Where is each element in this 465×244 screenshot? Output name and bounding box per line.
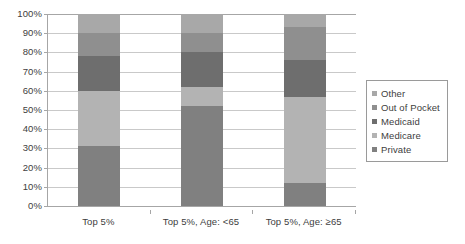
bar-segment xyxy=(78,33,120,56)
bar-segment xyxy=(284,97,326,183)
bar-segment xyxy=(78,91,120,147)
y-axis-tick-label: 20% xyxy=(23,163,42,173)
bar-segment xyxy=(181,14,223,33)
legend-label: Medicaid xyxy=(381,116,420,127)
x-axis-tick-mark xyxy=(355,210,356,214)
bar-segment xyxy=(284,60,326,96)
bar-segment xyxy=(181,33,223,52)
y-axis-tick-label: 10% xyxy=(23,182,42,192)
bar-segment xyxy=(78,14,120,33)
bar-segment xyxy=(78,146,120,206)
legend-label: Private xyxy=(381,144,411,155)
bars-layer xyxy=(48,14,356,206)
y-axis-tick-label: 100% xyxy=(17,9,42,19)
bar-segment xyxy=(284,183,326,206)
x-axis-tick-mark xyxy=(150,210,151,214)
y-axis-tick-label: 50% xyxy=(23,105,42,115)
stacked-bar-chart: 0%10%20%30%40%50%60%70%80%90%100% Top 5%… xyxy=(0,0,465,244)
y-axis-tick-mark xyxy=(44,206,48,207)
legend-item: Out of Pocket xyxy=(372,100,440,114)
legend-swatch-icon xyxy=(372,91,377,96)
bar-group xyxy=(78,14,120,206)
x-axis-tick-label: Top 5% xyxy=(47,216,150,228)
y-axis: 0%10%20%30%40%50%60%70%80%90%100% xyxy=(0,14,46,206)
y-axis-tick-label: 80% xyxy=(23,47,42,57)
y-axis-tick-label: 40% xyxy=(23,124,42,134)
bar-segment xyxy=(284,14,326,27)
bar-group xyxy=(181,14,223,206)
bar-segment xyxy=(78,56,120,91)
legend-label: Out of Pocket xyxy=(381,102,440,113)
legend-item: Medicaid xyxy=(372,114,440,128)
y-axis-tick-label: 60% xyxy=(23,86,42,96)
legend-swatch-icon xyxy=(372,133,377,138)
bar-segment xyxy=(181,106,223,206)
legend-swatch-icon xyxy=(372,119,377,124)
legend-item: Medicare xyxy=(372,128,440,142)
x-axis-tick-label: Top 5%, Age: ≥65 xyxy=(252,216,355,228)
bar-group xyxy=(284,14,326,206)
y-axis-tick-label: 30% xyxy=(23,143,42,153)
legend-label: Medicare xyxy=(381,130,421,141)
bar-segment xyxy=(181,87,223,106)
bar-segment xyxy=(284,27,326,60)
y-axis-tick-label: 70% xyxy=(23,67,42,77)
bar-segment xyxy=(181,52,223,87)
legend-swatch-icon xyxy=(372,105,377,110)
plot-area xyxy=(47,14,356,207)
chart-legend: OtherOut of PocketMedicaidMedicarePrivat… xyxy=(366,80,448,162)
legend-label: Other xyxy=(381,88,405,99)
legend-item: Private xyxy=(372,142,440,156)
y-axis-tick-label: 90% xyxy=(23,28,42,38)
x-axis: Top 5%Top 5%, Age: <65Top 5%, Age: ≥65 xyxy=(47,210,355,230)
x-axis-tick-mark xyxy=(252,210,253,214)
x-axis-tick-label: Top 5%, Age: <65 xyxy=(150,216,253,228)
y-axis-tick-label: 0% xyxy=(28,201,42,211)
legend-item: Other xyxy=(372,86,440,100)
legend-swatch-icon xyxy=(372,147,377,152)
